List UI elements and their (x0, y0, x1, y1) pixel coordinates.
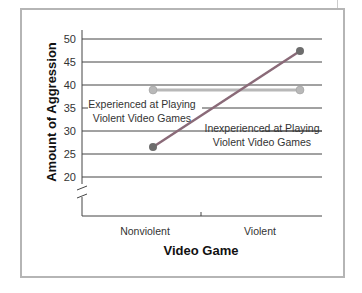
ytick-45: 45 (64, 56, 76, 68)
ytick-25: 25 (64, 148, 76, 160)
series-experienced-point-violent (296, 86, 304, 94)
ytick-40: 40 (64, 79, 76, 91)
x-axis-title: Video Game (164, 243, 239, 258)
series-inexperienced-point-violent (296, 47, 304, 55)
annotation-experienced-line2: Violent Video Games (93, 112, 191, 124)
annotation-inexperienced-line1: Inexperienced at Playing (205, 122, 320, 134)
xtick-violent: Violent (244, 225, 276, 237)
ytick-35: 35 (64, 102, 76, 114)
y-axis-title: Amount of Aggression (44, 42, 59, 182)
series-experienced-point-nonviolent (149, 86, 157, 94)
ytick-20: 20 (64, 171, 76, 183)
annotation-inexperienced-line2: Violent Video Games (213, 136, 311, 148)
line-chart: 50 45 40 35 30 25 20 Experienced at Play… (0, 0, 362, 293)
ytick-50: 50 (64, 33, 76, 45)
series-inexperienced-point-nonviolent (149, 143, 157, 151)
xtick-nonviolent: Nonviolent (120, 225, 170, 237)
annotation-experienced-line1: Experienced at Playing (88, 98, 196, 110)
axis-break-1 (77, 186, 87, 190)
ytick-30: 30 (64, 125, 76, 137)
